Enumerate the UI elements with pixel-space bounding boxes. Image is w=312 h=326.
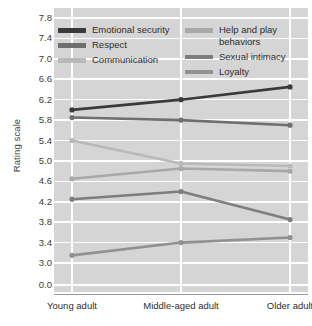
y-axis-tick-label: 6.6 <box>39 74 52 84</box>
data-point-marker <box>287 235 292 240</box>
x-axis-tick-labels: Young adultMiddle-aged adultOlder adult <box>0 300 312 320</box>
data-point-marker <box>287 169 292 174</box>
data-point-marker <box>287 123 292 128</box>
y-axis-tick-label: 6.2 <box>39 95 52 105</box>
x-axis-tick-label: Middle-aged adult <box>143 300 219 311</box>
x-axis-tick-label: Older adult <box>267 300 312 311</box>
legend-item[interactable]: Communication <box>58 54 198 66</box>
legend-item[interactable]: Help and play behaviors <box>185 24 310 47</box>
y-axis-tick-labels: 7.87.47.06.66.25.85.45.04.64.23.83.43.00… <box>28 8 52 298</box>
y-axis-tick-label: 5.4 <box>39 136 52 146</box>
data-point-marker <box>178 161 183 166</box>
y-axis-title: Rating scale <box>11 86 22 206</box>
y-axis-tick-label: 3.4 <box>39 238 52 248</box>
y-axis-tick-label: 5.8 <box>39 115 52 125</box>
y-axis-tick-label: 3.8 <box>39 217 52 227</box>
y-axis-tick-label: 4.6 <box>39 176 52 186</box>
y-axis-tick-label: 7.4 <box>39 33 52 43</box>
y-axis-tick-label: 0.0 <box>39 280 52 290</box>
data-point-marker <box>69 253 74 258</box>
data-point-marker <box>69 115 74 120</box>
legend-swatch-icon <box>185 28 213 33</box>
legend-swatch-icon <box>58 58 86 63</box>
data-point-marker <box>178 189 183 194</box>
data-point-marker <box>69 197 74 202</box>
y-axis-tick-label: 3.0 <box>39 258 52 268</box>
legend-item-label: Respect <box>92 39 127 51</box>
legend-swatch-icon <box>58 43 86 48</box>
data-point-marker <box>69 138 74 143</box>
legend-item[interactable]: Respect <box>58 39 198 51</box>
y-axis-tick-label: 7.8 <box>39 13 52 23</box>
data-point-marker <box>69 107 74 112</box>
data-point-marker <box>178 117 183 122</box>
legend-item[interactable]: Emotional security <box>58 24 198 36</box>
legend-swatch-icon <box>185 70 213 75</box>
legend-column-right: Help and play behaviorsSexual intimacyLo… <box>185 24 310 81</box>
legend-item-label: Help and play behaviors <box>219 24 277 47</box>
legend-swatch-icon <box>58 28 86 33</box>
y-axis-tick-label: 4.2 <box>39 197 52 207</box>
legend-item[interactable]: Loyalty <box>185 66 310 78</box>
legend-item[interactable]: Sexual intimacy <box>185 51 310 63</box>
legend-item-label: Communication <box>92 54 158 66</box>
legend-item-label: Loyalty <box>219 66 249 78</box>
y-axis-tick-label: 7.0 <box>39 54 52 64</box>
data-point-marker <box>287 163 292 168</box>
line-chart: Rating scale 7.87.47.06.66.25.85.45.04.6… <box>0 0 312 326</box>
data-point-marker <box>178 240 183 245</box>
legend-item-label: Emotional security <box>92 24 170 36</box>
data-point-marker <box>69 176 74 181</box>
legend-swatch-icon <box>185 55 213 60</box>
data-point-marker <box>178 97 183 102</box>
series-line <box>72 192 290 220</box>
legend-column-left: Emotional securityRespectCommunication <box>58 24 198 69</box>
y-axis-tick-label: 5.0 <box>39 156 52 166</box>
data-point-marker <box>178 166 183 171</box>
chart-legend: Emotional securityRespectCommunication H… <box>58 24 308 86</box>
x-axis-tick-label: Young adult <box>47 300 97 311</box>
x-axis-line <box>54 294 308 295</box>
data-point-marker <box>287 217 292 222</box>
legend-item-label: Sexual intimacy <box>219 51 286 63</box>
